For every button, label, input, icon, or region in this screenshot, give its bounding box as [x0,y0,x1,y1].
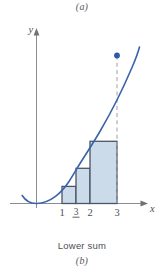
figure-container: (a) y [0,0,164,268]
x-tick-label-2: 2 [87,207,92,218]
rect-2 [76,168,90,203]
fraction-numerator: 3 [74,207,79,217]
x-axis-arrow [141,201,149,207]
x-tick-label-1: 1 [59,207,64,218]
rect-3 [90,141,117,203]
x-tick-label-3: 3 [114,207,119,218]
figure-title: Lower sum [0,240,164,251]
lower-sum-rectangles [62,141,117,203]
marked-point [114,53,120,59]
y-axis-label: y [28,24,34,35]
plot-area: y x 1 3 2 2 3 [0,18,164,218]
panel-label-b: (b) [0,255,164,266]
panel-label-a: (a) [0,1,164,12]
lower-sum-chart: y x 1 3 2 2 3 [0,18,164,218]
y-axis-arrow [34,28,40,36]
x-axis-label: x [149,203,155,214]
x-tick-labels: 1 3 2 2 3 [59,207,119,218]
x-tick-label-three-halves: 3 2 [73,207,80,218]
